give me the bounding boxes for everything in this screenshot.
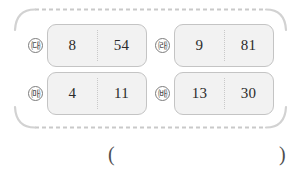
card-group-4: ㈓ 13 30 <box>155 72 274 115</box>
card-grid: ㈐ 8 54 ㈑ 9 81 ㈒ 4 11 ㈓ <box>0 0 305 135</box>
card-group-3: ㈒ 4 11 <box>28 72 147 115</box>
marker-rieul-icon: ㈓ <box>155 86 170 101</box>
card-3-left-value: 4 <box>48 85 97 102</box>
marker-giyeok-icon: ㈐ <box>28 38 43 53</box>
marker-nieun-icon: ㈑ <box>155 38 170 53</box>
number-card-2[interactable]: 9 81 <box>174 24 274 67</box>
card-1-divider <box>97 30 98 61</box>
answer-close-paren: ) <box>279 138 286 170</box>
answer-open-paren: ( <box>108 138 115 170</box>
card-group-2: ㈑ 9 81 <box>155 24 274 67</box>
card-2-divider <box>224 30 225 61</box>
number-card-1[interactable]: 8 54 <box>47 24 147 67</box>
card-2-right-value: 81 <box>224 37 273 54</box>
answer-input[interactable] <box>118 138 278 170</box>
card-2-left-value: 9 <box>175 37 224 54</box>
card-1-right-value: 54 <box>97 37 146 54</box>
card-3-right-value: 11 <box>97 85 146 102</box>
number-card-3[interactable]: 4 11 <box>47 72 147 115</box>
card-4-left-value: 13 <box>175 85 224 102</box>
card-group-1: ㈐ 8 54 <box>28 24 147 67</box>
card-4-divider <box>224 78 225 109</box>
answer-blank: ( ) <box>0 138 305 173</box>
marker-digeut-icon: ㈒ <box>28 86 43 101</box>
card-3-divider <box>97 78 98 109</box>
card-4-right-value: 30 <box>224 85 273 102</box>
card-1-left-value: 8 <box>48 37 97 54</box>
number-card-4[interactable]: 13 30 <box>174 72 274 115</box>
worksheet-canvas: ㈐ 8 54 ㈑ 9 81 ㈒ 4 11 ㈓ <box>0 0 305 173</box>
